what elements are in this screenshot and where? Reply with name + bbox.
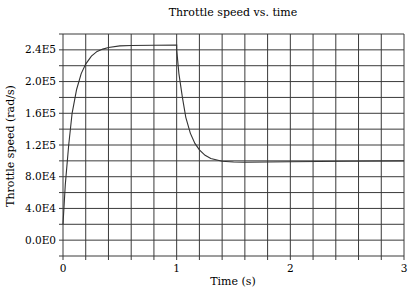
y-axis-ticks: 0.0E04.0E48.0E41.2E51.6E52.0E52.4E5 [25,43,56,245]
y-tick-label: 4.0E4 [25,202,56,214]
x-tick-label: 2 [287,262,294,274]
x-tick-label: 1 [173,262,180,274]
y-tick-label: 1.2E5 [25,139,56,151]
x-tick-label: 3 [401,262,408,274]
plot-grid [59,34,404,260]
throttle-speed-line [63,45,404,224]
chart-title: Throttle speed vs. time [169,6,298,19]
x-axis-label: Time (s) [210,275,256,288]
x-axis-ticks: 0123 [60,262,408,274]
y-tick-label: 2.0E5 [25,75,56,87]
y-tick-label: 8.0E4 [25,170,56,182]
y-tick-label: 0.0E0 [25,234,56,246]
y-tick-label: 1.6E5 [25,107,56,119]
y-axis-label: Throttle speed (rad/s) [4,85,17,207]
x-tick-label: 0 [60,262,67,274]
y-tick-label: 2.4E5 [25,43,56,55]
line-chart: Throttle speed vs. time 0123 0.0E04.0E48… [0,0,420,301]
